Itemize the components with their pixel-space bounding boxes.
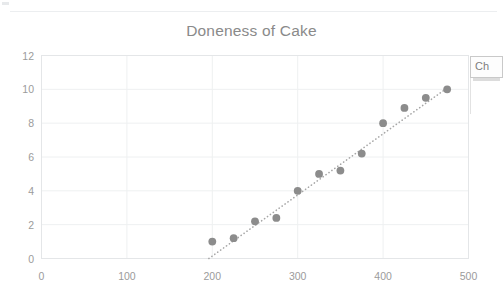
- gridlines: [42, 56, 469, 259]
- chart-container[interactable]: Doneness of Cake 024681012 0100200300400…: [0, 0, 503, 302]
- x-tick-label: 300: [289, 270, 307, 282]
- scatter-plot: [0, 0, 503, 302]
- data-point: [230, 234, 238, 242]
- callout-shadow: [473, 78, 500, 81]
- data-point: [251, 217, 259, 225]
- x-tick-label: 200: [204, 270, 222, 282]
- y-tick-label: 4: [6, 185, 34, 197]
- y-tick-label: 8: [6, 117, 34, 129]
- data-markers: [208, 85, 451, 245]
- y-tick-label: 6: [6, 151, 34, 163]
- data-point: [315, 170, 323, 178]
- y-tick-label: 0: [6, 253, 34, 265]
- trendline: [209, 87, 449, 259]
- y-tick-label: 12: [6, 50, 34, 62]
- data-point: [337, 167, 345, 175]
- chart-elements-button[interactable]: Ch: [470, 56, 503, 78]
- data-point: [358, 150, 366, 158]
- data-point: [294, 187, 302, 195]
- callout-stem: [470, 78, 471, 114]
- data-point: [208, 238, 216, 246]
- data-point: [379, 119, 387, 127]
- x-tick-label: 0: [39, 270, 45, 282]
- data-point: [401, 104, 409, 112]
- chart-elements-label: Ch: [475, 60, 489, 72]
- data-point: [443, 85, 451, 93]
- y-tick-label: 10: [6, 83, 34, 95]
- x-tick-label: 500: [460, 270, 478, 282]
- x-tick-label: 100: [118, 270, 136, 282]
- data-point: [422, 94, 430, 102]
- data-point: [272, 214, 280, 222]
- x-tick-label: 400: [374, 270, 392, 282]
- y-tick-label: 2: [6, 219, 34, 231]
- trendline-path: [209, 87, 449, 259]
